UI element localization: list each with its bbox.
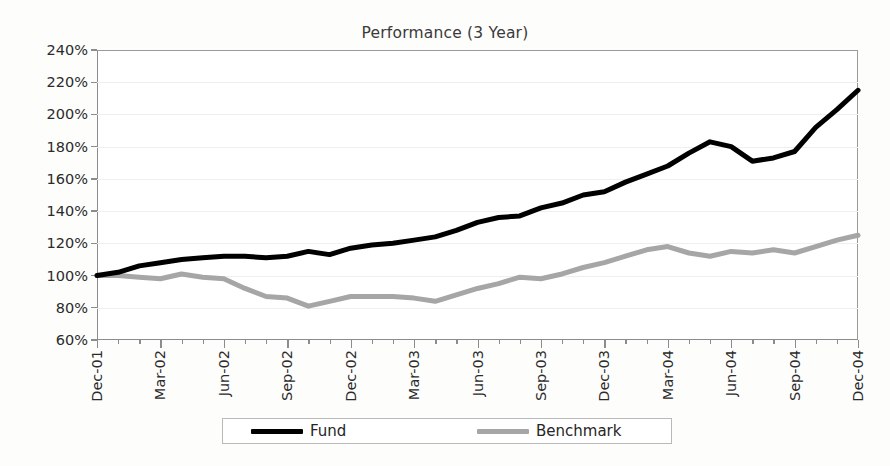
x-axis-major-tick bbox=[287, 340, 288, 348]
y-axis-tick-label: 60% bbox=[2, 332, 88, 348]
series-line-benchmark bbox=[97, 235, 858, 306]
y-axis-tick-label: 180% bbox=[2, 139, 88, 155]
x-axis-major-tick bbox=[731, 340, 732, 348]
x-axis-major-tick bbox=[414, 340, 415, 348]
x-axis-tick-label: Dec-02 bbox=[343, 350, 359, 402]
x-axis-minor-tick bbox=[752, 340, 753, 344]
x-axis-major-tick bbox=[858, 340, 859, 348]
series-line-fund bbox=[97, 90, 858, 275]
y-axis-tick-label: 240% bbox=[2, 42, 88, 58]
y-axis-tick-label: 200% bbox=[2, 106, 88, 122]
y-axis-labels: 60%80%100%120%140%160%180%200%220%240% bbox=[0, 50, 88, 340]
x-axis-minor-tick bbox=[773, 340, 774, 344]
x-axis-tick-label: Sep-03 bbox=[533, 350, 549, 401]
y-axis-tick-label: 100% bbox=[2, 268, 88, 284]
legend-swatch-fund bbox=[251, 429, 303, 434]
x-axis-minor-tick bbox=[647, 340, 648, 344]
series-lines bbox=[97, 50, 858, 340]
x-axis-minor-tick bbox=[266, 340, 267, 344]
chart-legend: Fund Benchmark bbox=[222, 418, 672, 444]
x-axis-minor-tick bbox=[308, 340, 309, 344]
x-axis-major-tick bbox=[604, 340, 605, 348]
chart-title: Performance (3 Year) bbox=[0, 24, 890, 42]
y-axis-tick-label: 160% bbox=[2, 171, 88, 187]
x-axis-minor-tick bbox=[435, 340, 436, 344]
legend-label-benchmark: Benchmark bbox=[536, 422, 621, 440]
x-axis-tick-label: Sep-04 bbox=[787, 350, 803, 401]
x-axis-tick-label: Dec-04 bbox=[850, 350, 866, 402]
x-axis-minor-tick bbox=[330, 340, 331, 344]
x-axis-labels: Dec-01Mar-02Jun-02Sep-02Dec-02Mar-03Jun-… bbox=[97, 350, 858, 408]
performance-chart: Performance (3 Year) 60%80%100%120%140%1… bbox=[0, 0, 890, 466]
x-axis-minor-tick bbox=[245, 340, 246, 344]
x-axis-minor-tick bbox=[393, 340, 394, 344]
x-axis-minor-tick bbox=[182, 340, 183, 344]
x-axis-major-tick bbox=[668, 340, 669, 348]
x-axis-tick-label: Jun-04 bbox=[723, 350, 739, 396]
x-axis-minor-tick bbox=[710, 340, 711, 344]
legend-entry-benchmark: Benchmark bbox=[477, 419, 621, 443]
x-axis-major-tick bbox=[97, 340, 98, 348]
x-axis-minor-tick bbox=[203, 340, 204, 344]
x-axis-tick-label: Mar-03 bbox=[406, 350, 422, 400]
x-axis-tick-label: Dec-03 bbox=[596, 350, 612, 402]
x-axis-ticks bbox=[97, 340, 858, 350]
x-axis-tick-label: Dec-01 bbox=[89, 350, 105, 402]
x-axis-tick-label: Jun-02 bbox=[216, 350, 232, 396]
x-axis-minor-tick bbox=[139, 340, 140, 344]
x-axis-minor-tick bbox=[689, 340, 690, 344]
x-axis-major-tick bbox=[795, 340, 796, 348]
y-axis-tick-label: 140% bbox=[2, 203, 88, 219]
x-axis-minor-tick bbox=[456, 340, 457, 344]
x-axis-minor-tick bbox=[562, 340, 563, 344]
y-axis-tick-label: 80% bbox=[2, 300, 88, 316]
x-axis-minor-tick bbox=[520, 340, 521, 344]
x-axis-tick-label: Jun-03 bbox=[470, 350, 486, 396]
x-axis-major-tick bbox=[478, 340, 479, 348]
legend-entry-fund: Fund bbox=[251, 419, 346, 443]
x-axis-minor-tick bbox=[583, 340, 584, 344]
y-axis-tick-label: 220% bbox=[2, 74, 88, 90]
x-axis-major-tick bbox=[160, 340, 161, 348]
x-axis-tick-label: Mar-04 bbox=[660, 350, 676, 400]
x-axis-minor-tick bbox=[816, 340, 817, 344]
legend-label-fund: Fund bbox=[310, 422, 346, 440]
legend-swatch-benchmark bbox=[477, 429, 529, 434]
x-axis-major-tick bbox=[224, 340, 225, 348]
x-axis-minor-tick bbox=[499, 340, 500, 344]
x-axis-major-tick bbox=[351, 340, 352, 348]
plot-area bbox=[97, 50, 858, 340]
x-axis-tick-label: Mar-02 bbox=[152, 350, 168, 400]
x-axis-minor-tick bbox=[837, 340, 838, 344]
x-axis-tick-label: Sep-02 bbox=[279, 350, 295, 401]
x-axis-major-tick bbox=[541, 340, 542, 348]
x-axis-minor-tick bbox=[372, 340, 373, 344]
x-axis-minor-tick bbox=[118, 340, 119, 344]
y-axis-tick-label: 120% bbox=[2, 235, 88, 251]
x-axis-minor-tick bbox=[625, 340, 626, 344]
